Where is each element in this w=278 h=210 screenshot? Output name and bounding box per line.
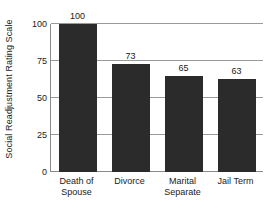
bar-value-label: 63 <box>218 67 256 76</box>
x-tick-label: Divorce <box>103 176 156 187</box>
y-axis-tick-labels: 0255075100 <box>18 0 47 210</box>
bar-value-label: 73 <box>112 52 150 61</box>
y-tick-label-0: 0 <box>21 168 47 177</box>
bar[interactable] <box>165 76 203 172</box>
plot-area: 100736563 <box>50 24 262 172</box>
x-axis-tick-labels: Death ofSpouseDivorceMaritalSeparateJail… <box>50 176 262 208</box>
bar-value-label: 65 <box>165 64 203 73</box>
x-tick-label: Jail Term <box>209 176 262 187</box>
y-tick-label-100: 100 <box>21 20 47 29</box>
x-tick-label-line: Spouse <box>50 187 103 198</box>
bar[interactable] <box>218 79 256 172</box>
bar-slot: 65 <box>165 24 203 172</box>
bar[interactable] <box>112 64 150 172</box>
x-tick-label: MaritalSeparate <box>156 176 209 198</box>
bar-value-label: 100 <box>59 12 97 21</box>
bar[interactable] <box>59 24 97 172</box>
y-axis-title: Social Readjustment Rating Scale <box>4 19 14 158</box>
y-tick-label-75: 75 <box>21 57 47 66</box>
x-tick-label-line: Divorce <box>103 176 156 187</box>
x-tick-label-line: Separate <box>156 187 209 198</box>
y-tick-label-50: 50 <box>21 94 47 103</box>
x-tick-label-line: Death of <box>50 176 103 187</box>
x-tick-label: Death ofSpouse <box>50 176 103 198</box>
bar-series: 100736563 <box>51 24 263 172</box>
x-tick-label-line: Jail Term <box>209 176 262 187</box>
chart-figure: Social Readjustment Rating Scale 0255075… <box>0 0 278 210</box>
y-axis-title-container: Social Readjustment Rating Scale <box>0 0 18 178</box>
bar-slot: 100 <box>59 24 97 172</box>
x-tick-label-line: Marital <box>156 176 209 187</box>
y-tick-label-25: 25 <box>21 131 47 140</box>
bar-slot: 63 <box>218 24 256 172</box>
bar-slot: 73 <box>112 24 150 172</box>
